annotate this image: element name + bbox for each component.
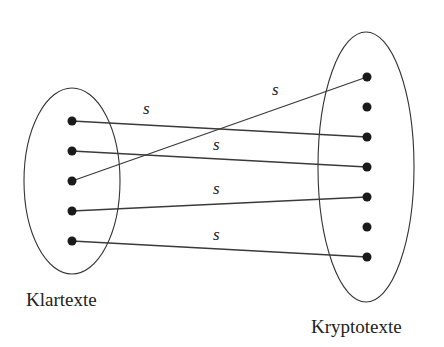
ciphertext-points [363,73,372,262]
ciphertext-point [363,163,372,172]
edge-label: s [213,225,220,244]
ciphertext-point [363,193,372,202]
edge-label: s [143,99,150,118]
plaintext-point [68,117,77,126]
plaintext-points [68,117,77,246]
plaintext-set-label: Klartexte [26,289,97,310]
plaintext-point [68,177,77,186]
ciphertext-point [363,223,372,232]
ciphertext-point [363,73,372,82]
mapping-diagram: sssss Klartexte Kryptotexte [0,0,444,347]
edge-label: s [272,80,279,99]
mapping-edge [72,197,367,211]
edge-label: s [213,179,220,198]
mapping-edge [72,77,367,181]
edge-label: s [213,135,220,154]
plaintext-point [68,237,77,246]
ciphertext-point [363,133,372,142]
plaintext-point [68,207,77,216]
ciphertext-point [363,253,372,262]
ciphertext-set-label: Kryptotexte [311,316,402,337]
plaintext-point [68,147,77,156]
edge-labels: sssss [143,80,279,244]
ciphertext-point [363,103,372,112]
